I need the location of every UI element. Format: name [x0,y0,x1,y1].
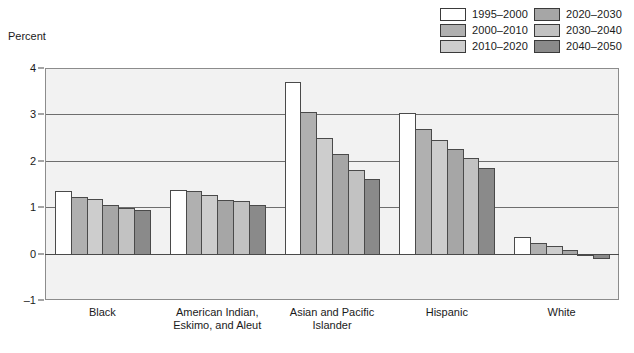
y-axis-title: Percent [8,30,46,42]
legend-swatch-2010-2020 [440,40,466,53]
legend-label-2030-2040: 2030–2040 [566,24,622,37]
bar [102,205,119,255]
y-tick-label-1: 1 [30,201,36,213]
legend-swatch-1995-2000 [440,8,466,21]
bar [217,200,234,255]
bar [87,199,104,254]
y-tick-mark-4 [38,68,44,69]
bar [316,138,333,255]
bar [415,129,432,254]
bar [118,208,135,254]
bar [364,179,381,254]
y-tick-mark--1 [38,300,44,301]
y-tick-mark-3 [38,114,44,115]
zero-baseline [45,254,619,255]
bar [233,201,250,254]
bar [514,237,531,254]
y-tick-label-0: 0 [30,248,36,260]
bar [201,195,218,255]
bar [447,149,464,254]
bar [463,158,480,254]
bar [300,112,317,255]
bar [285,82,302,255]
bar [134,210,151,255]
bar [478,168,495,255]
y-tick-label--1: –1 [24,294,36,306]
y-tick-mark-0 [38,253,44,254]
legend-swatch-2000-2010 [440,24,466,37]
bar [399,113,416,255]
x-category-label: American Indian, Eskimo, and Aleut [173,306,261,332]
legend-swatch-2020-2030 [534,8,560,21]
legend-label-2010-2020: 2010–2020 [472,40,528,53]
x-category-label: Hispanic [426,306,468,319]
bar [55,191,72,255]
legend-label-2040-2050: 2040–2050 [566,40,622,53]
legend-swatch-2040-2050 [534,40,560,53]
x-category-label: Black [89,306,116,319]
legend-label-2000-2010: 2000–2010 [472,24,528,37]
bar [249,205,266,255]
x-category-label: White [548,306,576,319]
bar [332,154,349,255]
chart-legend: 1995–20002020–20302000–20102030–20402010… [440,6,622,54]
legend-swatch-2030-2040 [534,24,560,37]
bar [186,191,203,255]
bar [348,170,365,255]
bar [71,197,88,255]
y-axis-ticks: 43210–1 [0,68,45,300]
y-tick-label-3: 3 [30,108,36,120]
y-tick-mark-1 [38,207,44,208]
legend-label-2020-2030: 2020–2030 [566,8,622,21]
legend-label-1995-2000: 1995–2000 [472,8,528,21]
y-tick-label-4: 4 [30,62,36,74]
bar [431,140,448,255]
x-category-label: Asian and Pacific Islander [290,306,374,332]
bar [170,190,187,255]
y-tick-label-2: 2 [30,155,36,167]
bars-layer [45,68,619,300]
y-tick-mark-2 [38,160,44,161]
